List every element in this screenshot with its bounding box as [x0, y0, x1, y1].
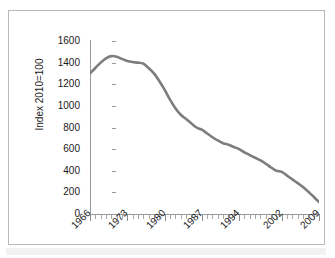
y-axis-tick-label: 1400	[58, 58, 80, 68]
x-axis-minor-tick	[212, 215, 213, 219]
scan-artifact-strip	[6, 248, 326, 255]
x-axis-minor-tick	[181, 215, 182, 219]
x-axis-minor-tick	[95, 215, 96, 219]
x-axis-minor-tick	[133, 215, 134, 219]
x-axis-minor-tick	[260, 215, 261, 219]
y-axis-tick-label: 1200	[58, 79, 80, 89]
x-axis-minor-tick	[106, 215, 107, 219]
y-axis-tick-label: 1000	[58, 101, 80, 111]
y-axis-tick-label: 800	[63, 123, 80, 133]
x-axis-minor-tick	[175, 215, 176, 219]
x-axis-minor-tick	[298, 215, 299, 219]
plot-area	[90, 41, 319, 214]
chart-frame: Index 2010=100 1600140012001000800600400…	[8, 10, 325, 245]
x-axis-minor-tick	[101, 215, 102, 219]
x-axis-minor-tick	[255, 215, 256, 219]
x-axis-minor-tick	[138, 215, 139, 219]
x-axis-minor-tick	[287, 215, 288, 219]
series-line-index	[90, 41, 319, 214]
y-axis-tick-label: 1600	[58, 36, 80, 46]
x-axis-minor-tick	[143, 215, 144, 219]
chart-figure: Index 2010=100 1600140012001000800600400…	[0, 0, 335, 258]
x-axis-minor-tick	[244, 215, 245, 219]
x-axis-minor-tick	[218, 215, 219, 219]
x-axis-minor-tick	[207, 215, 208, 219]
y-axis-tick-label: 200	[63, 187, 80, 197]
x-axis-minor-tick	[250, 215, 251, 219]
y-axis-tick-labels: 16001400120010008006004002000	[35, 33, 85, 221]
y-axis-tick-label: 400	[63, 166, 80, 176]
y-axis-tick-label: 600	[63, 144, 80, 154]
x-axis-minor-tick	[292, 215, 293, 219]
x-axis-minor-tick	[170, 215, 171, 219]
